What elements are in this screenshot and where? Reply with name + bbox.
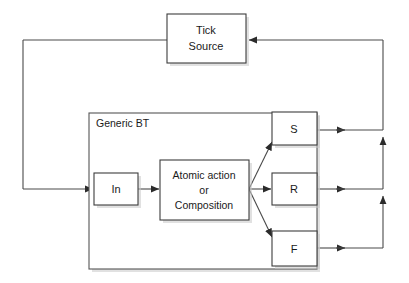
behavior-tree-diagram: Generic BT Tick Source In Atomic action … (0, 0, 409, 283)
in-node-label: In (111, 183, 120, 195)
atomic-node-label-line1: Atomic action (172, 169, 235, 181)
atomic-node-label-line2: or (199, 184, 209, 196)
tick-source-label-line2: Source (189, 40, 224, 52)
running-node-label: R (290, 183, 298, 195)
atomic-node-label-line3: Composition (175, 199, 234, 211)
diagram-canvas: Generic BT Tick Source In Atomic action … (0, 0, 409, 283)
generic-bt-label: Generic BT (96, 117, 150, 129)
success-node-label: S (290, 123, 297, 135)
tick-source-label-line1: Tick (196, 24, 216, 36)
tick-source-box[interactable] (167, 14, 246, 63)
failure-node-label: F (291, 243, 298, 255)
